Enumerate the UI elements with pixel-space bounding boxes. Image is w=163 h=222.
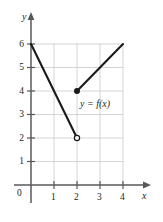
y-tick-label-5: 5: [12, 63, 24, 73]
axes-lines: [14, 17, 146, 203]
y-tick-label-2: 2: [12, 134, 24, 144]
x-tick-label-2: 2: [74, 193, 79, 203]
y-tick-label-4: 4: [12, 87, 24, 97]
closed-dot-marker: [74, 88, 80, 94]
graph-canvas: [0, 0, 163, 222]
y-tick-label-1: 1: [12, 157, 24, 167]
function-graph-figure: 6 5 4 3 2 1 0 1 2 3 4 y x y = f(x): [0, 0, 163, 222]
y-axis-label: y: [22, 12, 26, 22]
x-axis-arrowhead: [143, 182, 151, 189]
function-label: y = f(x): [80, 99, 110, 109]
x-axis-label: x: [142, 191, 146, 201]
y-axis-arrowhead: [28, 12, 35, 20]
y-tick-label-3: 3: [12, 110, 24, 120]
y-tick-label-6: 6: [12, 40, 24, 50]
x-tick-label-3: 3: [97, 193, 102, 203]
x-tick-label-4: 4: [120, 193, 125, 203]
open-circle-marker: [74, 135, 79, 140]
x-tick-label-1: 1: [51, 193, 56, 203]
origin-label: 0: [17, 189, 22, 199]
